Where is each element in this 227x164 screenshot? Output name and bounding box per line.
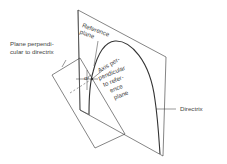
angle-label: α [84,74,88,81]
directrix-diagram: α Reference plane Plane perpendi- cular … [0,0,227,164]
perp-plane-leader [62,60,66,67]
svg-text:Plane perpendi-: Plane perpendi- [10,40,54,47]
axis-dashed [70,79,92,93]
intersection-point [91,78,93,80]
directrix-label: Directrix [180,105,204,112]
reference-plane-edge [78,10,80,110]
directrix-curve [89,41,160,154]
perpendicular-plane-label: Plane perpendi- cular to directrix [10,40,55,55]
svg-text:cular to directrix: cular to directrix [10,48,55,55]
